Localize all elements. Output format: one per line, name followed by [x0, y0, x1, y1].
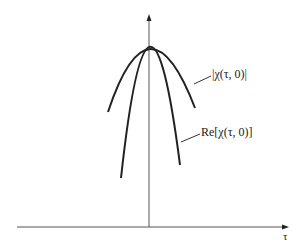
real-part-label: Re[χ(τ, 0)]: [201, 125, 252, 140]
x-axis-label: τ: [283, 230, 287, 242]
magnitude-leader-line: [194, 76, 211, 84]
y-axis-arrow-icon: [147, 14, 152, 21]
ambiguity-function-diagram: [0, 0, 303, 250]
real-part-leader-line: [181, 134, 200, 142]
x-axis-arrow-icon: [282, 225, 289, 230]
magnitude-curve: [108, 49, 195, 112]
real-part-curve: [121, 47, 180, 178]
magnitude-label: |χ(τ, 0)|: [212, 67, 247, 82]
